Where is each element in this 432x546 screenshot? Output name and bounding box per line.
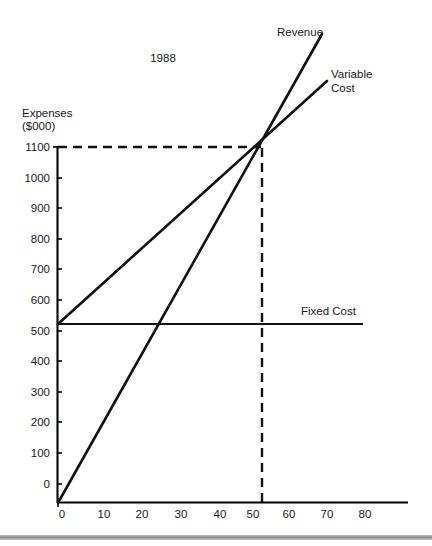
break-even-chart: 1988 Expenses ($000) 1100 1000 900 <box>0 0 432 546</box>
series-label-variable-cost-line2: Cost <box>331 82 355 94</box>
y-tick-label: 800 <box>31 233 50 245</box>
series-line-revenue <box>59 34 323 502</box>
x-tick-labels: 0 10 20 30 40 50 60 70 80 <box>59 508 372 520</box>
y-tick-label: 500 <box>31 325 50 337</box>
y-tick-label: 900 <box>31 202 50 214</box>
y-tick-label: 700 <box>31 263 50 275</box>
series-label-fixed-cost: Fixed Cost <box>301 305 357 317</box>
series-label-variable-cost-line1: Variable <box>331 68 372 80</box>
x-tick-label: 20 <box>136 508 149 520</box>
x-tick-label: 50 <box>247 508 260 520</box>
chart-title: 1988 <box>150 52 176 64</box>
y-tick-labels: 1100 1000 900 800 700 600 500 400 300 20… <box>24 141 50 490</box>
y-tick-label: 100 <box>31 447 50 459</box>
x-tick-label: 80 <box>359 508 372 520</box>
x-tick-label: 30 <box>175 508 188 520</box>
page-footer-rule <box>0 535 432 540</box>
y-tick-label: 1100 <box>25 141 50 153</box>
y-tick-label: 200 <box>31 416 50 428</box>
y-tick-label: 1000 <box>24 172 50 184</box>
y-tick-label: 300 <box>31 386 50 398</box>
x-tick-label: 70 <box>321 508 334 520</box>
x-tick-label: 0 <box>59 508 65 520</box>
y-axis-title-line2: ($000) <box>22 120 55 132</box>
x-tick-label: 40 <box>214 508 227 520</box>
chart-canvas: 1988 Expenses ($000) 1100 1000 900 <box>0 0 432 546</box>
y-tick-label: 0 <box>44 478 50 490</box>
series-label-revenue: Revenue <box>277 26 323 38</box>
x-tick-label: 10 <box>98 508 111 520</box>
x-tick-label: 60 <box>283 508 296 520</box>
y-axis-title-line1: Expenses <box>22 107 73 119</box>
y-tick-label: 600 <box>31 294 50 306</box>
y-tick-label: 400 <box>31 355 50 367</box>
series-line-variable-cost <box>58 81 327 324</box>
